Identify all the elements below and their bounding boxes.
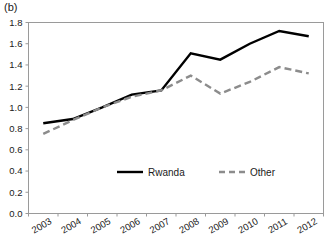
legend-label-rwanda: Rwanda: [148, 167, 185, 178]
y-tick-label: 1.0: [9, 102, 22, 113]
x-tick-label: 2007: [148, 215, 172, 235]
y-tick-label: 0.0: [9, 208, 22, 219]
figure-panel: (b) 0.00.20.40.60.81.01.21.41.61.8 20032…: [0, 0, 335, 244]
y-tick-label: 1.6: [9, 38, 22, 49]
x-tick-label: 2011: [266, 216, 289, 236]
x-tick-label: 2004: [59, 215, 83, 235]
x-tick-label: 2008: [177, 215, 201, 235]
legend-label-other: Other: [250, 167, 276, 178]
y-tick-label: 0.8: [9, 123, 22, 134]
y-tick-label: 0.6: [9, 144, 22, 155]
x-axis-tick-labels: 2003200420052006200720082009201020112012: [30, 215, 319, 235]
x-tick-label: 2012: [295, 215, 319, 235]
y-tick-label: 0.4: [9, 165, 22, 176]
y-tick-label: 1.4: [9, 59, 22, 70]
line-chart: 0.00.20.40.60.81.01.21.41.61.8 200320042…: [0, 0, 335, 244]
x-tick-label: 2010: [236, 215, 260, 235]
x-tick-label: 2006: [118, 215, 142, 235]
y-tick-label: 1.8: [9, 17, 22, 28]
x-tick-label: 2005: [89, 215, 113, 235]
y-axis-tick-labels: 0.00.20.40.60.81.01.21.41.61.8: [9, 17, 22, 219]
x-tick-label: 2003: [30, 215, 54, 235]
x-tick-label: 2009: [207, 215, 231, 235]
y-tick-label: 1.2: [9, 81, 22, 92]
y-tick-label: 0.2: [9, 187, 22, 198]
